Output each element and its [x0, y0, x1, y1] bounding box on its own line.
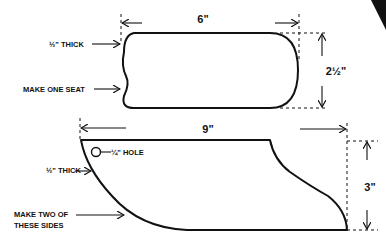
seat-thickness-label: ½" THICK — [49, 40, 84, 49]
seat-outline — [123, 33, 298, 108]
hole-icon — [92, 148, 101, 157]
seat-width-label: 6" — [197, 13, 208, 25]
side-part: ¼" HOLE 9" 3" ½" THICK MAKE TWO OF THESE… — [14, 118, 378, 230]
side-quantity-label-line2: THESE SIDES — [14, 221, 64, 230]
seat-height-label: 2½" — [326, 65, 347, 77]
woodworking-plan-drawing: 6" 2½" ½" THICK MAKE ONE SEAT ¼" HOLE 9"… — [0, 0, 386, 243]
side-height-label: 3" — [364, 181, 375, 193]
side-quantity-label-line1: MAKE TWO OF — [14, 210, 69, 219]
corner-shadow — [371, 0, 386, 30]
hole-label: ¼" HOLE — [111, 148, 144, 157]
seat-part: 6" 2½" ½" THICK MAKE ONE SEAT — [23, 13, 346, 108]
side-width-label: 9" — [202, 123, 213, 135]
seat-quantity-label: MAKE ONE SEAT — [23, 85, 85, 94]
